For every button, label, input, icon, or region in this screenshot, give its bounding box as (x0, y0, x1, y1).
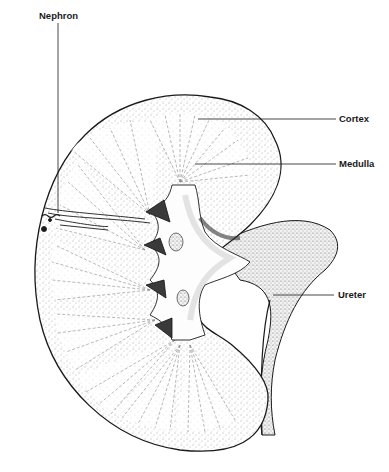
label-nephron: Nephron (39, 11, 78, 21)
label-cortex: Cortex (339, 114, 369, 124)
label-ureter: Ureter (338, 290, 366, 300)
label-medulla: Medulla (339, 159, 374, 169)
kidney-diagram (0, 0, 389, 472)
